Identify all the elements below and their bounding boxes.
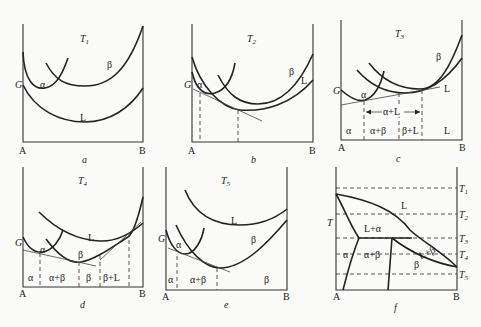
panel-f: T L L+α α α+β L+β β T1 T2 T3 T4 T5 A B f (327, 167, 469, 313)
panel-c-liquid-label: L (444, 83, 450, 94)
panel-c-region-alpha-beta: α+β (370, 125, 386, 136)
panel-b-alpha-label: α (197, 79, 203, 90)
panel-c-beta-curve (369, 35, 462, 89)
panel-c-temperature-label: T3 (395, 28, 405, 41)
panel-e-region-alpha-beta: α+β (190, 274, 206, 285)
panel-c-region-alpha: α (346, 125, 352, 136)
panel-f-t-axis-label: T (327, 217, 334, 228)
panel-f-beta-solvus (388, 238, 392, 290)
panel-f-caption: f (394, 302, 398, 313)
panel-e-liquid-label: L (231, 215, 237, 226)
panel-c-common-tangent (341, 87, 440, 105)
panel-c-caption: c (396, 153, 401, 164)
panel-c-g-label: G (333, 85, 340, 96)
panel-c-range-label: α+L (383, 106, 400, 117)
panel-e-g-label: G (158, 233, 165, 244)
panel-f-alpha-solidus (336, 194, 359, 238)
panel-f-region-alpha-beta: α+β (364, 249, 380, 260)
panel-a-a-label: A (19, 145, 27, 156)
panel-e-beta-label: β (251, 234, 256, 245)
panel-f-a-label: A (333, 291, 341, 302)
panel-f-t3-label: T3 (459, 233, 469, 246)
panel-a-beta-label: β (107, 59, 112, 70)
panel-e-region-alpha: α (168, 274, 174, 285)
panel-a-beta-curve (46, 26, 143, 86)
panel-f-t5-label: T5 (459, 269, 469, 282)
panel-a-alpha-label: α (40, 79, 46, 90)
panel-e-a-label: A (162, 291, 170, 302)
panel-b-caption: b (251, 154, 256, 165)
panel-b-beta-label: β (289, 66, 294, 77)
panel-e-beta-curve (176, 220, 287, 268)
panel-f-t1-label: T1 (459, 183, 468, 196)
panel-e-caption: e (224, 299, 229, 310)
panel-d-region-alpha: α (28, 272, 34, 283)
panel-c-arrow-right-icon (415, 110, 420, 115)
panel-d-alpha-label: α (40, 244, 46, 255)
panel-d-tangent-alpha-beta (23, 250, 96, 266)
panel-d-temperature-label: T4 (78, 175, 88, 188)
panel-a-alpha-curve (23, 52, 68, 88)
panel-b-a-label: A (188, 145, 196, 156)
panel-a-g-label: G (15, 79, 22, 90)
panel-e-b-label: B (283, 291, 290, 302)
panel-d-region-beta-liquid: β+L (103, 272, 120, 283)
panel-f-t4-label: T4 (459, 249, 469, 262)
panel-d-a-label: A (19, 288, 27, 299)
panel-c-alpha-label: α (361, 89, 367, 100)
panel-d-beta-label: β (78, 249, 83, 260)
panel-e-alpha-label: α (176, 239, 182, 250)
panel-b-b-label: B (309, 145, 316, 156)
panel-f-b-label: B (453, 291, 460, 302)
panel-a-liquid-label: L (80, 112, 86, 123)
panel-d-liquid-label: L (88, 232, 94, 243)
panel-d-caption: d (80, 299, 86, 310)
panel-f-region-beta: β (414, 259, 419, 270)
panel-a-temperature-label: T1 (80, 33, 89, 46)
panel-f-t2-label: T2 (459, 209, 469, 222)
panel-c-arrow-left-icon (366, 110, 371, 115)
panel-a: T1 G α β L A B a (15, 24, 146, 165)
panel-c-a-label: A (338, 142, 346, 153)
panel-c-region-liquid: L (444, 125, 450, 136)
panel-e-region-beta: β (264, 274, 269, 285)
panel-e: T5 G α α+β β α β L A B e (158, 167, 290, 310)
panel-d-region-beta: β (86, 272, 91, 283)
panel-b-liquid-label: L (301, 75, 307, 86)
panel-e-temperature-label: T5 (221, 175, 231, 188)
panel-a-b-label: B (139, 145, 146, 156)
panel-b-g-label: G (184, 79, 191, 90)
panel-f-alpha-solvus (343, 238, 359, 290)
panel-b-common-tangent (193, 89, 262, 121)
panel-f-region-liquid-alpha: L+α (364, 223, 382, 234)
panel-b: T2 G α β L A B b (184, 24, 316, 165)
panel-b-beta-curve (218, 54, 313, 104)
panel-a-caption: a (82, 154, 87, 165)
panel-d-g-label: G (15, 237, 22, 248)
panel-d-b-label: B (139, 288, 146, 299)
panel-c-beta-label: β (436, 51, 441, 62)
panel-c-b-label: B (459, 142, 466, 153)
panel-c: T3 G α+L α α+β β+L L α β L A B c (333, 20, 466, 164)
panel-f-region-liquid-beta: L+β (417, 244, 437, 261)
panel-c-region-beta-liquid: β+L (402, 125, 419, 136)
panel-f-region-liquid: L (401, 200, 407, 211)
gibbs-energy-diagram-figure: T1 G α β L A B a T2 G α β L A B b (0, 0, 481, 327)
panel-b-temperature-label: T2 (247, 33, 257, 46)
panel-f-region-alpha: α (343, 249, 349, 260)
panel-d: T4 G α α+β β β+L α β L A B d (15, 167, 146, 310)
panel-d-region-alpha-beta: α+β (49, 272, 65, 283)
